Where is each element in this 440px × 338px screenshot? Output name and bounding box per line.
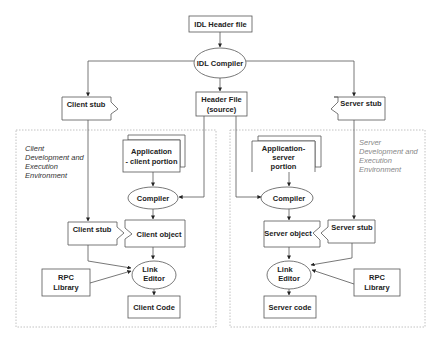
client-object-node: Client object bbox=[125, 220, 185, 247]
svg-text:- client portion: - client portion bbox=[125, 157, 177, 166]
client-environment-label: Client Development and Execution Environ… bbox=[25, 144, 85, 180]
svg-text:Client Code: Client Code bbox=[133, 303, 175, 312]
svg-text:portion: portion bbox=[271, 162, 297, 171]
svg-text:Client stub: Client stub bbox=[73, 225, 112, 234]
server-environment-label: Server Development and Execution Environ… bbox=[359, 138, 419, 174]
svg-text:Library: Library bbox=[53, 283, 79, 292]
svg-text:Development and: Development and bbox=[25, 153, 85, 162]
svg-text:IDL Header file: IDL Header file bbox=[194, 20, 246, 29]
arrow-client-stub-to-link bbox=[88, 245, 131, 268]
svg-text:Library: Library bbox=[364, 283, 390, 292]
application-client-portion-node: Application - client portion bbox=[123, 135, 185, 172]
svg-text:Application: Application bbox=[131, 147, 172, 156]
header-file-source-node: Header File (source) bbox=[196, 92, 247, 116]
svg-text:Server stub: Server stub bbox=[340, 99, 382, 108]
svg-text:Compiler: Compiler bbox=[137, 194, 170, 203]
svg-text:Execution: Execution bbox=[359, 156, 392, 165]
svg-text:Client: Client bbox=[25, 144, 45, 153]
svg-text:Client object: Client object bbox=[136, 230, 182, 239]
server-compiler-node: Compiler bbox=[261, 187, 313, 209]
arrow-compiler-to-client-stub bbox=[88, 61, 194, 96]
svg-text:Editor: Editor bbox=[278, 274, 300, 283]
svg-text:RPC: RPC bbox=[369, 273, 385, 282]
svg-text:Execution: Execution bbox=[25, 162, 58, 171]
svg-text:Application-: Application- bbox=[262, 144, 306, 153]
client-stub-link-node: Client stub bbox=[68, 222, 124, 245]
svg-text:IDL Compiler: IDL Compiler bbox=[197, 59, 244, 68]
svg-text:Client stub: Client stub bbox=[67, 100, 106, 109]
svg-text:Editor: Editor bbox=[143, 274, 165, 283]
svg-text:Server stub: Server stub bbox=[331, 223, 373, 232]
svg-text:Development and: Development and bbox=[359, 147, 419, 156]
server-stub-top-node: Server stub bbox=[331, 97, 385, 120]
client-stub-top-node: Client stub bbox=[62, 97, 118, 120]
server-code-node: Server code bbox=[264, 296, 316, 318]
svg-text:Link: Link bbox=[277, 265, 293, 274]
client-code-node: Client Code bbox=[128, 296, 180, 318]
arrow-server-rpc-to-link bbox=[312, 270, 354, 284]
server-stub-link-node: Server stub bbox=[321, 220, 375, 243]
diagram-canvas: IDL Header file IDL Compiler Client stub… bbox=[0, 0, 440, 338]
server-object-node: Server object bbox=[264, 221, 320, 247]
svg-text:RPC: RPC bbox=[58, 273, 74, 282]
svg-text:Server object: Server object bbox=[264, 229, 312, 238]
svg-text:server: server bbox=[272, 153, 295, 162]
svg-text:Compiler: Compiler bbox=[273, 194, 306, 203]
idl-compilation-diagram: IDL Header file IDL Compiler Client stub… bbox=[0, 0, 440, 338]
server-link-editor-node: Link Editor bbox=[267, 261, 311, 289]
svg-text:(source): (source) bbox=[207, 105, 237, 114]
arrow-compiler-to-server-stub bbox=[246, 61, 354, 96]
svg-text:Server: Server bbox=[359, 138, 382, 147]
svg-text:Header File: Header File bbox=[201, 95, 241, 104]
idl-header-file-node: IDL Header file bbox=[189, 16, 252, 32]
client-link-editor-node: Link Editor bbox=[132, 261, 176, 289]
idl-compiler-node: IDL Compiler bbox=[194, 48, 246, 78]
client-compiler-node: Compiler bbox=[128, 187, 178, 209]
svg-text:Environment: Environment bbox=[25, 171, 68, 180]
client-rpc-library-node: RPC Library bbox=[42, 269, 90, 296]
server-rpc-library-node: RPC Library bbox=[354, 269, 400, 296]
svg-text:Environment: Environment bbox=[359, 165, 402, 174]
arrow-client-rpc-to-link bbox=[90, 271, 131, 283]
svg-text:Link: Link bbox=[142, 265, 158, 274]
svg-text:Server code: Server code bbox=[269, 303, 312, 312]
application-server-portion-node: Application- server portion bbox=[252, 136, 321, 172]
